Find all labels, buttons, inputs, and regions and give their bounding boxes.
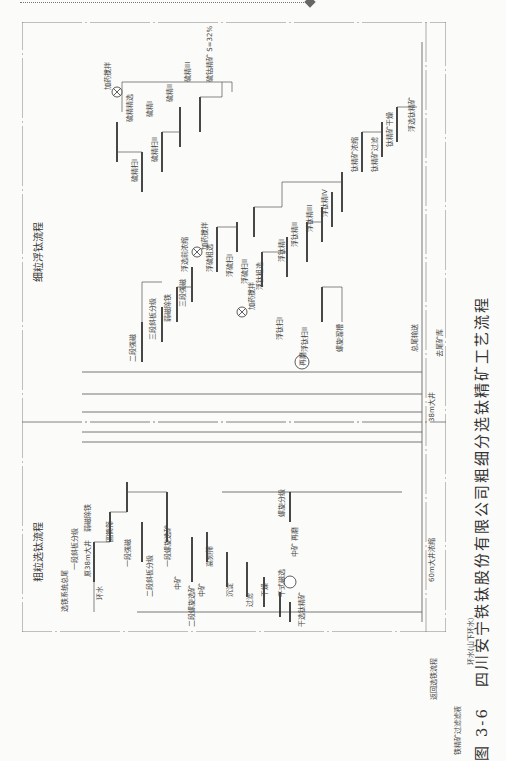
label-return-water: 环水 <box>95 586 104 600</box>
label-dry: 干燥 <box>260 583 269 597</box>
label-float-preconc: 浮选前浓缩 <box>180 237 189 272</box>
label-stage2-strong: 二段强磁 <box>128 334 137 362</box>
label-pit38-2: 38m大井 <box>427 392 436 422</box>
label-spiral-chute: 螺旋溜槽 <box>335 324 344 352</box>
label-ti-clean2: 浮钛精II <box>290 222 299 247</box>
label-ti-rough: 浮钛粗选 <box>255 262 264 290</box>
label-stage1-strong: 一段强磁 <box>123 539 132 567</box>
label-high-screen: 高频筛 <box>205 546 214 567</box>
label-s-scav-b: 硫精扫II <box>150 137 159 162</box>
label-stage2-classify: 二段斜板分级 <box>145 555 154 597</box>
label-ti-clean4: 浮钛精IV <box>320 189 329 217</box>
label-dry-ti-conc: 干选钛精矿 <box>297 592 306 627</box>
label-ti-filter: 钛精矿过滤 <box>370 137 379 172</box>
label-iron-filtrate: 铁精矿过滤滤液 <box>452 706 462 755</box>
label-pit60: 60m大井浓缩 <box>427 538 436 582</box>
label-stage3-classify: 三段斜板分级 <box>148 298 157 340</box>
label-stage2-spiral: 二段螺旋选矿 <box>187 585 196 627</box>
label-agitate2: 加药搅拌 <box>247 282 256 310</box>
label-ti-scav1: 浮钛扫I <box>275 317 284 340</box>
page-top-marker <box>304 0 315 8</box>
flowchart-canvas: 粗粒选钛流程 细粒浮钛流程 选铁系统总尾 一段斜板分级 原38m大井 弱磁除铁 … <box>22 22 446 632</box>
label-s-rough: 浮硫粗选 <box>205 244 214 272</box>
label-feed: 选铁系统总尾 <box>60 570 69 612</box>
label-s-conc: 硫钴精矿 S=32% <box>205 26 214 82</box>
flowchart-diagram: 粗粒选钛流程 细粒浮钛流程 选铁系统总尾 一段斜板分级 原38m大井 弱磁除铁 … <box>22 22 446 632</box>
label-stage1-spiral: 一段螺旋选矿 <box>163 525 172 567</box>
label-to-tailings: 去尾矿库 <box>435 329 444 357</box>
label-ti-dry: 钛精矿干燥 <box>385 112 394 147</box>
section-title-coarse: 粗粒选钛流程 <box>32 522 44 582</box>
section-title-fine: 细粒浮钛流程 <box>32 222 44 282</box>
label-ti-clean1: 浮钛精I <box>277 239 286 262</box>
label-settle: 沉淀 <box>225 583 234 597</box>
label-middling-regrind: 中矿 再磨 <box>290 527 299 557</box>
label-middling2: 中矿 <box>197 583 206 597</box>
label-s-clean2: 硫精II <box>165 84 174 102</box>
label-stage1-classify: 一段斜板分级 <box>70 528 79 570</box>
label-agitate3: 加药搅拌 <box>103 62 112 90</box>
label-float-ti-conc: 浮选钛精矿 <box>407 97 416 132</box>
label-middling1: 中矿 <box>173 576 182 590</box>
label-filter: 过滤 <box>245 593 254 607</box>
label-s-clean1: 硫精I <box>145 101 154 117</box>
label-ti-scav2: 浮钛扫II <box>300 327 309 352</box>
label-s-clean3: 硫精III <box>183 62 192 82</box>
label-s-clean-rough: 硫精精选 <box>125 94 134 122</box>
label-spiral-classify: 螺旋分级 <box>277 489 286 517</box>
label-weak-mag2: 弱磁除铁 <box>163 294 172 322</box>
label-weak-mag: 弱磁除铁 <box>83 504 92 532</box>
page-top-rule <box>20 2 310 3</box>
label-return-iron: 返回选铁流程 <box>428 658 438 700</box>
label-s-scav1: 浮硫扫I <box>225 254 234 277</box>
figure-caption: 图 3-6 四川安宁铁钛股份有限公司粗细分选钛精矿工艺流程 <box>470 296 491 761</box>
label-tail-out: 总尾输送 <box>410 324 419 352</box>
label-drum-screen: 圆筒筛 <box>105 521 114 542</box>
figure-number: 图 3-6 <box>473 707 491 761</box>
label-ti-clean3: 浮钛精III <box>305 205 314 232</box>
label-stage3-strong: 三段强磁 <box>178 279 187 307</box>
label-regrind: 再磨 <box>298 352 307 366</box>
label-s-scav2: 浮硫扫II <box>240 259 249 284</box>
label-s-scav-a: 硫精扫I <box>130 159 139 182</box>
label-dry-mag: 干式磁选 <box>277 569 286 597</box>
label-pit38: 原38m大井 <box>83 540 92 577</box>
figure-title: 四川安宁铁钛股份有限公司粗细分选钛精矿工艺流程 <box>473 296 491 687</box>
label-ti-thicken: 钛精矿浓缩 <box>350 137 359 172</box>
